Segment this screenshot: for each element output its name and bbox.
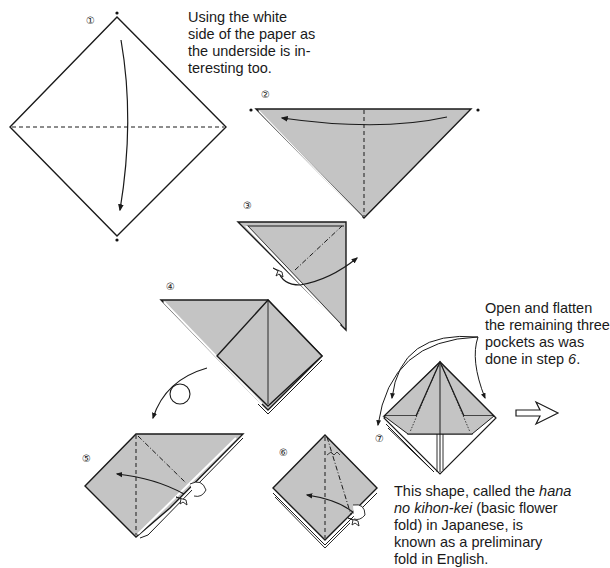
next-step-arrow-icon xyxy=(516,402,558,424)
corner-dot-icon xyxy=(476,108,479,111)
flatten-arrow-icon xyxy=(475,337,485,398)
push-in-icon xyxy=(273,268,283,277)
note-line: teresting too. xyxy=(188,60,315,77)
note-line: This shape, called the hana xyxy=(394,483,571,500)
note-text: This shape, called the xyxy=(394,483,539,499)
step-3-label: ③ xyxy=(243,200,252,211)
step-6-label: ⑥ xyxy=(279,447,288,458)
step-4: ④ xyxy=(153,281,322,418)
step-5: ⑤ xyxy=(82,434,243,538)
step-6: ⑥ xyxy=(273,435,377,548)
corner-dot-icon xyxy=(115,11,118,14)
intro-note: Using the white side of the paper as the… xyxy=(188,9,315,77)
note-line: done in step 6. xyxy=(485,351,610,368)
turn-over-arrow-icon xyxy=(153,368,207,418)
japanese-term: hana xyxy=(539,483,571,499)
pocket-icon xyxy=(190,482,206,496)
step-4-label: ④ xyxy=(166,281,175,292)
japanese-term: no kihon-kei xyxy=(394,500,472,516)
note-line: no kihon-kei (basic flower xyxy=(394,500,571,517)
step-reference: 6 xyxy=(568,351,576,367)
note-line: pockets as was xyxy=(485,334,610,351)
note-text: done in step xyxy=(485,351,568,367)
corner-dot-icon xyxy=(249,108,252,111)
note-line: side of the paper as xyxy=(188,26,315,43)
result-note: This shape, called the hana no kihon-kei… xyxy=(394,483,571,568)
corner-dot-icon xyxy=(115,238,118,241)
note-line: the underside is in- xyxy=(188,43,315,60)
step-7: ⑦ xyxy=(375,336,496,474)
folded-paper xyxy=(85,434,243,537)
note-line: Using the white xyxy=(188,9,315,26)
step-2: ② xyxy=(249,89,479,218)
note-line: the remaining three xyxy=(485,317,610,334)
note-line: fold in English. xyxy=(394,551,571,568)
step-5-label: ⑤ xyxy=(82,453,91,464)
note-text: . xyxy=(576,351,580,367)
turn-over-icon xyxy=(170,384,190,404)
note-text: (basic flower xyxy=(472,500,557,516)
note-line: fold) in Japanese, is xyxy=(394,517,571,534)
step7-note: Open and flatten the remaining three poc… xyxy=(485,300,610,368)
step-1-label: ① xyxy=(86,15,95,26)
step-7-label: ⑦ xyxy=(375,433,384,444)
step-2-label: ② xyxy=(261,89,270,100)
note-line: known as a preliminary xyxy=(394,534,571,551)
note-line: Open and flatten xyxy=(485,300,610,317)
